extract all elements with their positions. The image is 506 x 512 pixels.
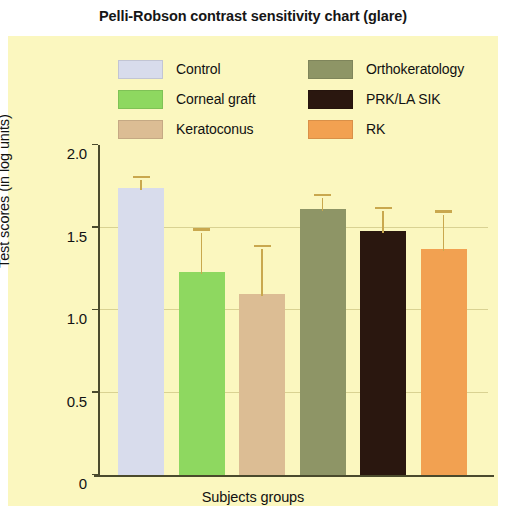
legend-swatch-corneal-graft: [118, 90, 163, 109]
error-bar-cap: [314, 194, 331, 196]
error-bar-line: [382, 211, 384, 232]
error-bar-cap: [375, 207, 392, 209]
legend-column-right: Orthokeratology PRK/LA SIK RK: [308, 54, 493, 144]
error-bar-cap: [435, 210, 452, 212]
bar-rk: [421, 249, 467, 475]
bar-keratoconus: [239, 294, 285, 476]
legend-swatch-control: [118, 60, 163, 79]
bar-orthokeratology: [300, 209, 346, 475]
chart-figure: Pelli-Robson contrast sensitivity chart …: [0, 0, 506, 512]
bar-prk-la-sik: [360, 231, 406, 475]
bar-control: [118, 188, 164, 475]
legend-swatch-orthokeratology: [308, 60, 353, 79]
legend-item-orthokeratology: Orthokeratology: [308, 54, 493, 84]
legend-swatch-keratoconus: [118, 120, 163, 139]
legend-item-keratoconus: Keratoconus: [118, 114, 303, 144]
legend-label-keratoconus: Keratoconus: [176, 121, 254, 137]
error-bar-cap: [193, 228, 210, 230]
legend-label-prk-lasik: PRK/LA SIK: [366, 91, 440, 107]
legend-swatch-prk-lasik: [308, 90, 353, 109]
error-bar-line: [261, 249, 263, 295]
legend-item-rk: RK: [308, 114, 493, 144]
bars-layer: [98, 145, 490, 477]
error-bar-line: [443, 215, 445, 251]
error-bar-cap: [254, 245, 271, 247]
legend-label-corneal-graft: Corneal graft: [176, 91, 256, 107]
legend-label-orthokeratology: Orthokeratology: [366, 61, 464, 77]
legend-label-control: Control: [176, 61, 220, 77]
bar-corneal-graft: [179, 272, 225, 475]
error-bar-line: [322, 198, 324, 211]
chart-legend: Control Corneal graft Keratoconus Orthok…: [118, 54, 498, 144]
error-bar-cap: [133, 176, 150, 178]
legend-column-left: Control Corneal graft Keratoconus: [118, 54, 303, 144]
legend-item-control: Control: [118, 54, 303, 84]
y-axis-title: Test scores (in log units): [0, 114, 12, 268]
chart-axes: 00.51.01.52.0: [98, 145, 490, 477]
legend-label-rk: RK: [366, 121, 385, 137]
error-bar-line: [201, 233, 203, 274]
legend-item-prk-lasik: PRK/LA SIK: [308, 84, 493, 114]
x-axis-title: Subjects groups: [0, 489, 506, 505]
chart-title: Pelli-Robson contrast sensitivity chart …: [0, 8, 506, 24]
error-bar-line: [140, 180, 142, 190]
legend-swatch-rk: [308, 120, 353, 139]
legend-item-corneal-graft: Corneal graft: [118, 84, 303, 114]
